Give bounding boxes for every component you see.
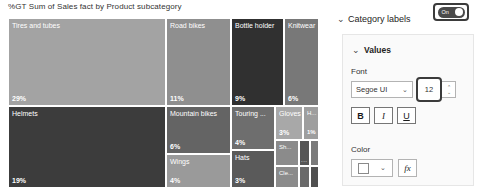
- font-label: Font: [351, 67, 367, 76]
- tile-value: 1%: [307, 128, 316, 137]
- treemap-tile-road-bikes[interactable]: Road bikes 11%: [166, 18, 231, 106]
- font-family-select[interactable]: Segoe UI ⌄: [351, 81, 413, 98]
- chevron-down-icon: ⌄: [336, 14, 346, 24]
- values-card: ⌄ Values Font Segoe UI ⌄ 12 ⌃ ⌄ B I U Co…: [342, 34, 474, 186]
- visual-title: %GT Sum of Sales fact by Product subcate…: [8, 2, 182, 11]
- treemap-tile-hats[interactable]: Hats 3%: [231, 150, 275, 188]
- font-family-value: Segoe UI: [356, 85, 387, 94]
- tile-label: Knitwear: [288, 21, 315, 30]
- treemap-plot-area[interactable]: Tires and tubes 29% Helmets 19% Road bik…: [8, 18, 319, 188]
- treemap-tile-h[interactable]: H... 1%: [303, 106, 319, 140]
- category-labels-label: Category labels: [348, 14, 411, 24]
- tile-label: Tires and tubes: [12, 21, 60, 30]
- treemap-tile-helmets[interactable]: Helmets 19%: [8, 106, 166, 188]
- category-labels-toggle[interactable]: On: [433, 3, 469, 21]
- chevron-down-icon[interactable]: ⌄: [380, 164, 386, 172]
- treemap-tile-mountain-bikes[interactable]: Mountain bikes 6%: [166, 106, 231, 154]
- font-size-input[interactable]: 12: [416, 77, 442, 102]
- treemap-tile-wings[interactable]: Wings 4%: [166, 154, 231, 188]
- toggle-knob: [455, 8, 463, 16]
- tile-value: 29%: [12, 94, 26, 103]
- color-swatch[interactable]: [358, 163, 369, 174]
- tile-value: 4%: [170, 176, 180, 185]
- tile-label: H...: [307, 109, 316, 118]
- chevron-down-icon[interactable]: ⌄: [447, 90, 451, 95]
- treemap-tile-touring[interactable]: Touring ... 4%: [231, 106, 275, 150]
- treemap-tile-cle[interactable]: Cle...: [275, 166, 299, 188]
- tile-label: Helmets: [12, 109, 38, 118]
- toggle-state-label: On: [442, 9, 449, 16]
- treemap-tile-unlabeled-1[interactable]: ...: [299, 140, 310, 166]
- tile-label: Sh...: [279, 143, 291, 152]
- tile-label: Mountain bikes: [170, 109, 217, 118]
- chevron-down-icon: ⌄: [351, 45, 361, 55]
- tile-value: 19%: [12, 176, 26, 185]
- tile-label: Touring ...: [235, 109, 266, 118]
- tile-overflow-dots: ...: [301, 157, 308, 163]
- treemap-visual[interactable]: %GT Sum of Sales fact by Product subcate…: [0, 0, 336, 192]
- tile-label: Gloves: [279, 109, 301, 118]
- font-size-stepper[interactable]: ⌃ ⌄: [442, 81, 456, 98]
- treemap-tile-bottle-holder[interactable]: Bottle holder 9%: [231, 18, 284, 106]
- tile-label: Cle...: [279, 169, 293, 178]
- tile-value: 11%: [170, 94, 184, 103]
- treemap-tile-unlabeled-2[interactable]: [310, 140, 319, 166]
- tile-value: 6%: [170, 142, 180, 151]
- tile-label: Road bikes: [170, 21, 205, 30]
- tile-value: 3%: [279, 128, 289, 137]
- tile-label: Wings: [170, 157, 189, 166]
- tile-value: 4%: [235, 138, 245, 147]
- format-pane: ⌄ Category labels On ⌄ Values Font Segoe…: [336, 0, 481, 192]
- tile-value: 3%: [235, 176, 245, 185]
- treemap-tile-gloves[interactable]: Gloves 3%: [275, 106, 303, 140]
- bold-button[interactable]: B: [351, 107, 370, 124]
- italic-button[interactable]: I: [374, 107, 393, 124]
- treemap-tile-unlabeled-4[interactable]: [310, 166, 319, 188]
- treemap-tile-knitwear[interactable]: Knitwear 6%: [284, 18, 319, 106]
- chevron-down-icon: ⌄: [402, 86, 408, 94]
- tile-value: 6%: [288, 94, 298, 103]
- values-label: Values: [364, 45, 391, 55]
- conditional-formatting-fx-button[interactable]: fx: [398, 159, 417, 177]
- treemap-tile-unlabeled-3[interactable]: [299, 166, 310, 188]
- treemap-tile-tires-and-tubes[interactable]: Tires and tubes 29%: [8, 18, 166, 106]
- font-size-value: 12: [425, 85, 433, 94]
- tile-label: Bottle holder: [235, 21, 274, 30]
- color-label: Color: [351, 145, 370, 154]
- underline-button[interactable]: U: [397, 107, 416, 124]
- tile-label: Hats: [235, 153, 249, 162]
- color-picker[interactable]: ⌄: [351, 159, 393, 177]
- values-section-header[interactable]: ⌄ Values: [351, 45, 391, 55]
- toggle-track[interactable]: On: [438, 7, 465, 18]
- tile-value: 9%: [235, 94, 245, 103]
- treemap-tile-sh[interactable]: Sh...: [275, 140, 299, 166]
